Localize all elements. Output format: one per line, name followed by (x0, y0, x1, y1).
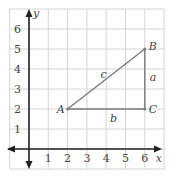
point-labels: ABCcab (56, 40, 158, 125)
side-label-c: c (100, 68, 106, 81)
x-tick-label: 5 (122, 152, 129, 165)
x-tick-label: 4 (103, 152, 110, 165)
y-tick-label: 6 (14, 23, 21, 36)
point-label-A: A (56, 103, 65, 116)
x-tick-label: 2 (64, 152, 71, 165)
x-tick-label: 3 (83, 152, 90, 165)
side-label-b: b (110, 112, 117, 125)
y-tick-label: 4 (14, 63, 21, 76)
point-B (143, 48, 146, 51)
y-tick-label: 1 (14, 123, 21, 136)
point-label-B: B (148, 40, 157, 53)
y-tick-label: 5 (14, 43, 21, 56)
x-axis-label: x (156, 152, 163, 165)
y-axis-label: y (32, 7, 40, 20)
y-axis-arrow-down-icon (26, 161, 33, 169)
y-tick-label: 2 (14, 103, 21, 116)
x-tick-label: 6 (141, 152, 148, 165)
x-axis-arrow-left-icon (7, 146, 15, 153)
x-tick-label: 1 (45, 152, 52, 165)
y-tick-label: 3 (14, 83, 21, 96)
grid (10, 9, 164, 169)
tick-labels: 123456123456xy (14, 7, 163, 165)
point-label-C: C (149, 103, 158, 116)
side-label-a: a (150, 71, 157, 84)
point-C (143, 108, 146, 111)
point-A (66, 108, 69, 111)
y-axis-arrow-up-icon (26, 9, 33, 17)
coordinate-plane: 123456123456xy ABCcab (0, 0, 181, 176)
